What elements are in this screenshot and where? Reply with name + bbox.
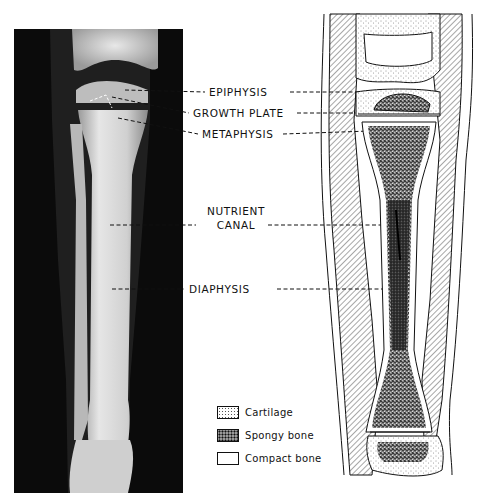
label-diaphysis: DIAPHYSIS [189,283,250,295]
label-epiphysis: EPIPHYSIS [209,86,268,98]
legend-label: Cartilage [245,407,293,418]
legend-item-cartilage: Cartilage [217,406,293,419]
figure-canvas [0,0,486,503]
spongy-bone-swatch-icon [217,429,239,442]
label-growth-plate: GROWTH PLATE [193,107,284,119]
legend-label: Spongy bone [245,430,314,441]
label-canal: CANAL [206,219,266,231]
schematic-panel [321,14,472,476]
label-nutrient: NUTRIENT [206,205,266,217]
legend-label: Compact bone [245,453,321,464]
legend-item-compact-bone: Compact bone [217,452,321,465]
figure: EPIPHYSIS GROWTH PLATE METAPHYSIS NUTRIE… [0,0,486,503]
cartilage-swatch-icon [217,406,239,419]
compact-bone-swatch-icon [217,452,239,465]
legend-item-spongy-bone: Spongy bone [217,429,314,442]
label-metaphysis: METAPHYSIS [202,128,274,140]
xray-panel [14,29,183,493]
